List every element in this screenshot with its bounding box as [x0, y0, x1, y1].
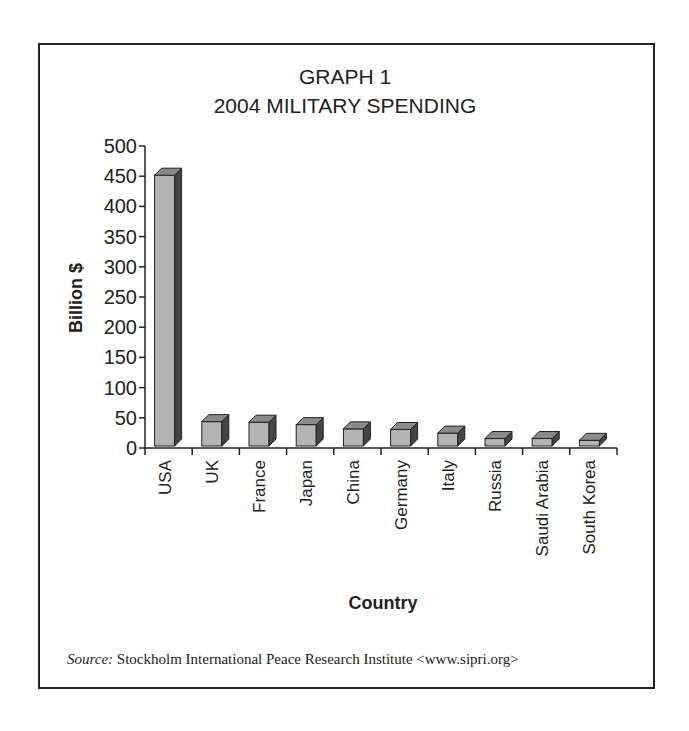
x-tick-label: France	[250, 460, 269, 513]
source-text: Stockholm International Peace Research I…	[117, 651, 519, 667]
x-tick-label: UK	[203, 459, 222, 483]
bar	[155, 168, 182, 446]
y-tick-label: 500	[104, 135, 137, 157]
x-tick-label: China	[344, 459, 363, 504]
bar	[249, 415, 276, 446]
chart-subtitle: 2004 MILITARY SPENDING	[214, 94, 477, 117]
bar	[485, 432, 512, 446]
y-tick-label: 100	[104, 377, 137, 399]
y-tick-label: 250	[104, 286, 137, 308]
x-tick-label: Russia	[486, 459, 505, 512]
y-tick-label: 150	[104, 346, 137, 368]
bar	[391, 422, 418, 446]
x-tick-label: Italy	[439, 460, 458, 492]
bar	[343, 422, 370, 446]
x-tick-label: USA	[156, 459, 175, 495]
bar	[438, 426, 465, 446]
y-tick-label: 0	[126, 437, 137, 459]
source-label: Source:	[67, 651, 113, 667]
x-axis: USAUKFranceJapanChinaGermanyItalyRussiaS…	[145, 448, 617, 556]
y-axis-label: Billion $	[66, 263, 86, 333]
x-tick-label: Saudi Arabia	[533, 459, 552, 556]
y-tick-label: 350	[104, 226, 137, 248]
chart-title: GRAPH 1	[299, 65, 391, 88]
bar	[532, 432, 559, 446]
y-tick-label: 300	[104, 256, 137, 278]
x-tick-label: Japan	[297, 460, 316, 506]
y-tick-label: 50	[115, 407, 137, 429]
bar-chart: GRAPH 1 2004 MILITARY SPENDING 050100150…	[0, 0, 689, 731]
x-tick-label: Germany	[392, 460, 411, 530]
bar	[202, 415, 229, 446]
bar	[296, 418, 323, 446]
y-tick-label: 200	[104, 316, 137, 338]
bars	[155, 168, 607, 446]
x-tick-label: South Korea	[580, 459, 599, 554]
y-axis: 050100150200250300350400450500	[104, 135, 145, 459]
source-note: Source: Stockholm International Peace Re…	[67, 651, 519, 668]
bar	[579, 433, 606, 446]
y-tick-label: 450	[104, 165, 137, 187]
y-tick-label: 400	[104, 195, 137, 217]
x-axis-label: Country	[349, 593, 418, 613]
